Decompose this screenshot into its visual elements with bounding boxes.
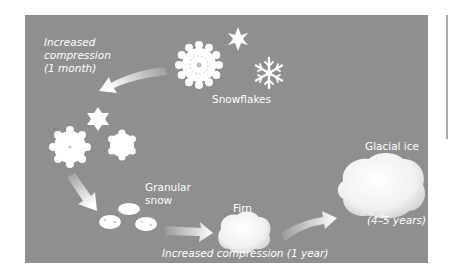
arrow-compression-year-icon [165,222,213,242]
snowflake-dendrite-icon [256,58,282,88]
label-line: (1 month) [44,62,111,75]
granular-snow-icon [99,203,157,231]
side-divider [446,15,448,139]
label-snowflakes: Snowflakes [212,93,271,106]
label-compression-month: Increased compression (1 month) [44,36,111,75]
compressed-flake-large-icon [49,126,91,168]
label-firn: Firn [233,202,252,215]
label-glacial-ice: Glacial ice [365,140,419,153]
glacial-ice-icon [338,153,425,218]
label-granular-snow: Granular snow [145,181,191,207]
arrow-to-glacial-ice-icon [281,211,337,241]
label-compression-year: Increased compression (1 year) [162,247,328,260]
compressed-flake-star-icon [87,107,109,131]
label-line: Granular [145,181,191,194]
diagram-panel: Increased compression (1 month) Snowflak… [25,15,428,263]
label-line: compression [44,49,111,62]
snowflake-small-icon [228,27,248,51]
arrow-to-granular-icon [67,173,97,211]
label-glacial-ice-duration: (4–5 years) [367,214,426,227]
label-line: snow [145,194,191,207]
label-line: Increased [44,36,111,49]
compressed-flake-round-icon [108,130,136,161]
snowflake-large-icon [175,41,223,89]
